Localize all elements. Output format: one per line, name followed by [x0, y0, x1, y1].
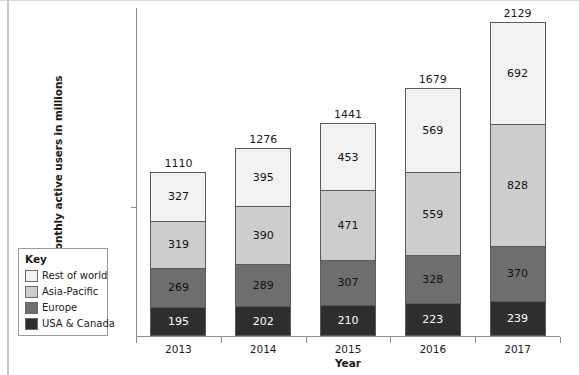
- bar-segment: 390: [235, 206, 291, 264]
- bar-stack: 327319269195: [150, 172, 206, 336]
- legend-item: Asia-Pacific: [25, 284, 102, 299]
- bar-segment-value-label: 210: [338, 315, 359, 326]
- bar-segment: 202: [235, 306, 291, 336]
- bar-segment-value-label: 202: [253, 316, 274, 327]
- bar-segment: 327: [150, 172, 206, 220]
- x-axis-line: [136, 336, 560, 337]
- bar-segment: 471: [320, 190, 376, 259]
- bar-segment-value-label: 569: [422, 125, 443, 136]
- bar-segment: 395: [235, 148, 291, 206]
- bar-stack: 692828370239: [490, 22, 546, 336]
- bar-segment: 307: [320, 260, 376, 305]
- x-axis-title: Year: [136, 357, 560, 369]
- bar-segment-value-label: 328: [422, 274, 443, 285]
- legend-color-swatch: [25, 318, 38, 330]
- bar-segment: 370: [490, 246, 546, 301]
- bar-segment-value-label: 195: [168, 316, 189, 327]
- bar-segment: 210: [320, 305, 376, 336]
- bar-total-label: 2129: [490, 7, 546, 20]
- y-axis-line: [136, 8, 137, 336]
- bar-segment: 195: [150, 307, 206, 336]
- legend-color-swatch: [25, 302, 38, 314]
- x-axis-tick: [136, 337, 137, 343]
- bar-group-2015: 1441453471307210: [320, 105, 376, 336]
- bar-segment-value-label: 223: [422, 314, 443, 325]
- bar-segment-value-label: 453: [338, 152, 359, 163]
- chart-legend: Key Rest of worldAsia-PacificEuropeUSA &…: [18, 248, 108, 336]
- bar-segment-value-label: 692: [507, 68, 528, 79]
- x-axis-tick: [560, 337, 561, 343]
- legend-item: Europe: [25, 300, 102, 315]
- bar-segment: 223: [405, 303, 461, 336]
- y-axis-origin-tick: [131, 207, 136, 208]
- x-tick-label-2014: 2014: [223, 343, 303, 355]
- legend-color-swatch: [25, 286, 38, 298]
- x-axis-tick: [475, 337, 476, 343]
- bar-stack: 453471307210: [320, 123, 376, 336]
- bar-segment-value-label: 319: [168, 239, 189, 250]
- bar-segment-value-label: 390: [253, 230, 274, 241]
- bar-segment: 559: [405, 172, 461, 254]
- bar-segment-value-label: 327: [168, 191, 189, 202]
- stacked-bar-chart: Monthly active users in millions Year 11…: [0, 0, 579, 375]
- bar-group-2013: 1110327319269195: [150, 154, 206, 336]
- bar-segment-value-label: 307: [338, 277, 359, 288]
- bar-segment: 239: [490, 301, 546, 336]
- bar-segment-value-label: 239: [507, 313, 528, 324]
- bar-group-2014: 1276395390289202: [235, 130, 291, 336]
- bar-segment: 328: [405, 255, 461, 303]
- bar-segment-value-label: 471: [338, 220, 359, 231]
- bar-total-label: 1110: [150, 157, 206, 170]
- bar-segment: 269: [150, 268, 206, 308]
- bar-segment: 828: [490, 124, 546, 246]
- bar-segment-value-label: 289: [253, 280, 274, 291]
- bar-segment: 692: [490, 22, 546, 124]
- x-axis-tick: [390, 337, 391, 343]
- bar-segment: 289: [235, 264, 291, 307]
- x-axis-tick: [306, 337, 307, 343]
- x-axis-tick: [221, 337, 222, 343]
- bar-total-label: 1441: [320, 108, 376, 121]
- bar-stack: 395390289202: [235, 148, 291, 336]
- bar-group-2016: 1679569559328223: [405, 70, 461, 336]
- bar-segment: 569: [405, 88, 461, 172]
- bar-stack: 569559328223: [405, 88, 461, 336]
- legend-rows: Rest of worldAsia-PacificEuropeUSA & Can…: [25, 268, 102, 331]
- bar-segment-value-label: 395: [253, 172, 274, 183]
- x-tick-label-2015: 2015: [308, 343, 388, 355]
- legend-title: Key: [25, 253, 102, 265]
- bar-segment-value-label: 559: [422, 209, 443, 220]
- legend-item: USA & Canada: [25, 316, 102, 331]
- legend-item-label: Asia-Pacific: [42, 286, 98, 297]
- bar-segment-value-label: 828: [507, 180, 528, 191]
- legend-item-label: USA & Canada: [42, 318, 115, 329]
- bar-segment-value-label: 269: [168, 282, 189, 293]
- bar-segment-value-label: 370: [507, 268, 528, 279]
- legend-item-label: Europe: [42, 302, 77, 313]
- bar-total-label: 1276: [235, 133, 291, 146]
- x-tick-label-2017: 2017: [478, 343, 558, 355]
- bar-segment: 319: [150, 221, 206, 268]
- bar-group-2017: 2129692828370239: [490, 4, 546, 336]
- legend-color-swatch: [25, 270, 38, 282]
- legend-item: Rest of world: [25, 268, 102, 283]
- legend-item-label: Rest of world: [42, 270, 107, 281]
- bar-total-label: 1679: [405, 73, 461, 86]
- bar-segment: 453: [320, 123, 376, 190]
- y-axis-title: Monthly active users in millions: [52, 58, 64, 278]
- x-tick-label-2013: 2013: [138, 343, 218, 355]
- x-tick-label-2016: 2016: [393, 343, 473, 355]
